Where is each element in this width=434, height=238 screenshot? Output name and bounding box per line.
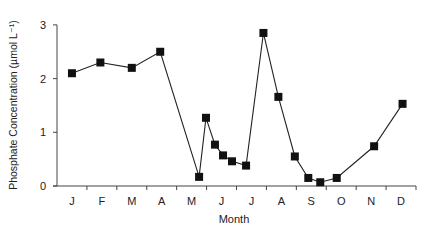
x-tick-label: M [127,195,136,207]
data-point-marker [202,114,210,122]
data-point-marker [242,162,250,170]
data-point-marker [304,174,312,182]
data-point-marker [274,93,282,101]
ticks: 0123JFMAMJJASOND [40,19,416,207]
x-tick-label: M [187,195,196,207]
data-point-marker [68,69,76,77]
data-point-marker [333,174,341,182]
y-tick-label: 2 [40,73,46,85]
data-point-marker [156,48,164,56]
data-point-marker [128,64,136,72]
data-point-marker [316,178,324,186]
x-tick-label: A [278,195,286,207]
x-tick-label: N [367,195,375,207]
x-tick-label: A [158,195,166,207]
data-point-marker [291,152,299,160]
data-point-marker [228,157,236,165]
data-point-marker [219,151,227,159]
y-axis-label: Phosphate Concentration (µmol L⁻¹) [7,20,19,190]
x-tick-label: S [308,195,315,207]
x-tick-label: J [249,195,255,207]
x-axis-label: Month [219,213,250,225]
y-tick-label: 0 [40,180,46,192]
data-line [72,33,403,182]
x-tick-label: F [99,195,106,207]
x-tick-label: D [397,195,405,207]
data-point-marker [195,173,203,181]
data-point-marker [399,100,407,108]
x-tick-label: J [219,195,225,207]
data-point-marker [370,142,378,150]
chart-canvas: 0123JFMAMJJASOND [0,0,434,238]
data-point-marker [259,29,267,37]
data-point-marker [96,58,104,66]
x-tick-label: J [69,195,75,207]
y-tick-label: 1 [40,126,46,138]
data-point-marker [211,141,219,149]
x-tick-label: O [337,195,346,207]
y-tick-label: 3 [40,19,46,31]
phosphate-chart: 0123JFMAMJJASOND [0,0,434,238]
